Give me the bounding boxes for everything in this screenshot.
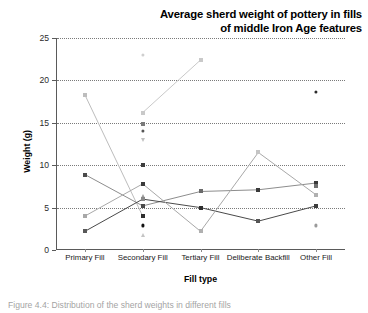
data-point bbox=[256, 219, 260, 223]
data-point bbox=[199, 229, 203, 233]
data-point bbox=[83, 229, 87, 233]
data-point bbox=[83, 93, 87, 97]
data-point bbox=[141, 138, 145, 142]
x-tick-label: Deliberate Backfill bbox=[227, 253, 290, 262]
data-point bbox=[314, 184, 318, 188]
data-point bbox=[83, 173, 87, 177]
data-point bbox=[141, 182, 145, 186]
data-point bbox=[256, 188, 260, 192]
x-tick-label: Secondary Fill bbox=[118, 253, 168, 262]
data-point bbox=[141, 122, 145, 126]
data-point bbox=[314, 193, 318, 197]
y-tick-label: 5 bbox=[44, 203, 49, 213]
x-tick-label: Primary Fill bbox=[65, 253, 104, 262]
figure-caption: Figure 4.4: Distribution of the sherd we… bbox=[8, 300, 360, 311]
y-tick-label: 0 bbox=[44, 245, 49, 255]
x-tick-label: Tertiary Fill bbox=[181, 253, 219, 262]
series-lines bbox=[56, 38, 345, 250]
data-point bbox=[141, 214, 145, 218]
data-point bbox=[141, 197, 145, 201]
data-point bbox=[141, 111, 145, 115]
y-axis-title: Weight (g) bbox=[22, 130, 32, 173]
plot-area: 0510152025 Primary FillSecondary FillTer… bbox=[56, 38, 345, 250]
y-tick-label: 15 bbox=[39, 118, 49, 128]
data-point bbox=[199, 206, 203, 210]
y-tick-label: 20 bbox=[39, 75, 49, 85]
y-tick-mark bbox=[52, 250, 56, 251]
x-axis-title: Fill type bbox=[56, 274, 345, 284]
series-line bbox=[85, 95, 143, 216]
series-line bbox=[143, 60, 201, 113]
x-tick-label: Other Fill bbox=[300, 253, 332, 262]
data-point bbox=[141, 233, 145, 237]
chart-title: Average sherd weight of pottery in fills… bbox=[96, 7, 362, 36]
data-point bbox=[314, 204, 318, 208]
y-tick-label: 25 bbox=[39, 33, 49, 43]
data-point bbox=[256, 150, 260, 154]
y-tick-label: 10 bbox=[39, 160, 49, 170]
data-point bbox=[199, 189, 203, 193]
figure-container: Average sherd weight of pottery in fills… bbox=[0, 0, 368, 313]
data-point bbox=[141, 163, 145, 167]
series-line bbox=[85, 199, 316, 231]
data-point bbox=[141, 204, 145, 208]
data-point bbox=[199, 58, 203, 62]
data-point bbox=[83, 214, 87, 218]
